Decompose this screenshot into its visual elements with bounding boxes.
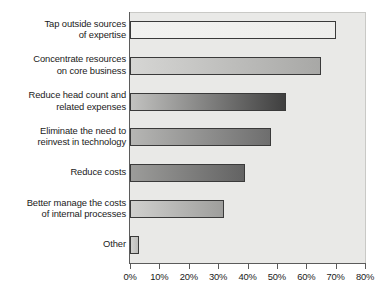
bar-chart: Tap outside sourcesof expertiseConcentra…	[0, 0, 386, 300]
category-label: Other	[0, 238, 126, 249]
category-label: Concentrate resourceson core business	[0, 53, 126, 76]
x-tick-mark	[159, 264, 160, 269]
bar	[130, 21, 336, 39]
x-tick-mark	[277, 264, 278, 269]
category-label-line: of expertise	[0, 29, 126, 40]
bar-row: Other	[0, 227, 386, 263]
x-tick-mark	[130, 264, 131, 269]
category-label-line: Better manage the costs	[27, 197, 126, 208]
bar-row: Reduce costs	[0, 155, 386, 191]
category-label-line: reinvest in technology	[0, 136, 126, 147]
x-tick-mark	[365, 264, 366, 269]
x-tick-mark	[248, 264, 249, 269]
bar-row: Eliminate the need toreinvest in technol…	[0, 120, 386, 156]
category-label: Tap outside sourcesof expertise	[0, 18, 126, 41]
bar	[130, 200, 224, 218]
category-label-line: on core business	[0, 65, 126, 76]
category-label-line: of internal processes	[0, 208, 126, 219]
category-label-line: Other	[103, 238, 126, 249]
x-tick-mark	[336, 264, 337, 269]
bar-row: Tap outside sourcesof expertise	[0, 12, 386, 48]
category-label: Better manage the costsof internal proce…	[0, 197, 126, 220]
bar-row: Better manage the costsof internal proce…	[0, 191, 386, 227]
bar	[130, 57, 321, 75]
x-tick-label: 80%	[345, 271, 385, 282]
x-tick-mark	[306, 264, 307, 269]
x-tick-mark	[189, 264, 190, 269]
category-label: Eliminate the need toreinvest in technol…	[0, 125, 126, 148]
bar	[130, 164, 245, 182]
bar	[130, 93, 286, 111]
category-label-line: Concentrate resources	[33, 53, 126, 64]
category-label-line: related expenses	[0, 101, 126, 112]
category-label: Reduce costs	[0, 166, 126, 177]
x-tick-mark	[218, 264, 219, 269]
bar	[130, 236, 139, 254]
bar-row: Concentrate resourceson core business	[0, 48, 386, 84]
bar-row: Reduce head count andrelated expenses	[0, 84, 386, 120]
category-label-line: Eliminate the need to	[40, 125, 126, 136]
category-label-line: Reduce head count and	[29, 89, 126, 100]
category-label-line: Tap outside sources	[45, 18, 126, 29]
category-label: Reduce head count andrelated expenses	[0, 89, 126, 112]
bar	[130, 128, 271, 146]
category-label-line: Reduce costs	[70, 166, 126, 177]
